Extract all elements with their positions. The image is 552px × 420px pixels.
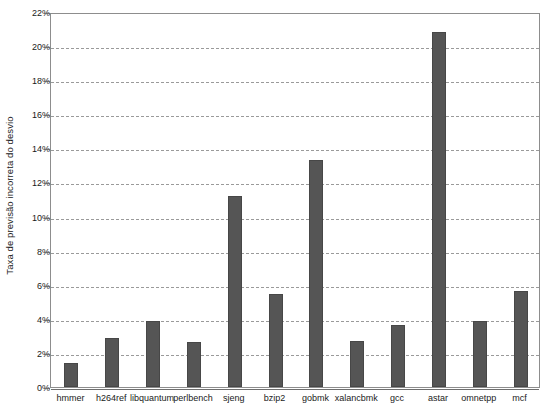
x-tick-label: gobmk <box>302 392 329 404</box>
x-tick-label: libquantum <box>130 392 174 404</box>
y-tick-label: 12% <box>18 179 50 188</box>
x-tick-label: bzip2 <box>264 392 286 404</box>
bar <box>269 294 283 387</box>
x-tick-label: perlbench <box>173 392 213 404</box>
bar <box>187 342 201 387</box>
bar <box>105 338 119 387</box>
x-tick-label: omnetpp <box>461 392 496 404</box>
y-tick-mark <box>44 388 50 389</box>
x-tick-label: sjeng <box>223 392 245 404</box>
bar <box>64 363 78 387</box>
bar <box>473 321 487 387</box>
bar <box>309 160 323 387</box>
bar <box>146 321 160 387</box>
y-tick-label: 16% <box>18 111 50 120</box>
plot-area <box>50 13 540 388</box>
bar <box>432 32 446 387</box>
bar-chart: Taxa de previsão incorreta do desvio 0%2… <box>0 0 552 420</box>
y-axis-title: Taxa de previsão incorreta do desvio <box>0 0 18 390</box>
y-tick-label: 22% <box>18 9 50 18</box>
y-tick-label: 4% <box>18 315 50 324</box>
bar <box>514 291 528 387</box>
x-tick-label: mcf <box>512 392 527 404</box>
y-tick-label: 8% <box>18 247 50 256</box>
x-tick-label: xalancbmk <box>335 392 378 404</box>
x-tick-label: h264ref <box>96 392 127 404</box>
y-tick-label: 18% <box>18 77 50 86</box>
x-tick-label: hmmer <box>56 392 84 404</box>
y-tick-label: 2% <box>18 349 50 358</box>
y-tick-label: 6% <box>18 281 50 290</box>
bar <box>350 341 364 387</box>
bars-layer <box>51 14 539 387</box>
x-axis-labels: hmmerh264reflibquantumperlbenchsjengbzip… <box>50 392 540 412</box>
bar <box>228 196 242 387</box>
gridline <box>51 389 539 390</box>
y-tick-label: 0% <box>18 384 50 393</box>
x-tick-label: astar <box>428 392 448 404</box>
y-tick-label: 14% <box>18 145 50 154</box>
x-tick-label: gcc <box>390 392 404 404</box>
bar <box>391 325 405 387</box>
y-tick-label: 10% <box>18 213 50 222</box>
y-tick-label: 20% <box>18 43 50 52</box>
y-axis-title-text: Taxa de previsão incorreta do desvio <box>4 116 15 274</box>
